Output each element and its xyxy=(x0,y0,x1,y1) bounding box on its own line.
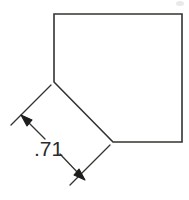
scan-artifact-speck xyxy=(176,1,184,6)
extension-line-lower xyxy=(70,145,110,185)
drawing-canvas: .71 xyxy=(0,0,189,200)
technical-drawing-svg xyxy=(0,0,189,200)
part-outline-chamfered-square xyxy=(54,14,182,142)
dimension-value-label: .71 xyxy=(34,138,63,159)
